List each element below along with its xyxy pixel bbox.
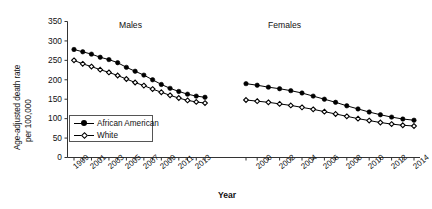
data-point-marker	[367, 118, 372, 123]
data-point-marker	[177, 89, 181, 93]
data-point-marker	[389, 115, 393, 119]
data-point-marker	[168, 86, 172, 90]
data-point-marker	[98, 67, 103, 72]
data-point-marker	[356, 107, 360, 111]
data-point-marker	[333, 100, 337, 104]
data-point-marker	[266, 100, 271, 105]
data-point-marker	[322, 97, 326, 101]
legend-item-white: White	[74, 129, 118, 141]
legend-marker-open-diamond-icon	[74, 131, 94, 140]
data-point-marker	[185, 98, 190, 103]
data-point-marker	[311, 94, 315, 98]
data-point-marker	[389, 122, 394, 127]
data-point-marker	[255, 99, 260, 104]
data-point-marker	[289, 88, 293, 92]
data-point-marker	[266, 85, 270, 89]
legend-label-white: White	[97, 131, 118, 140]
data-point-marker	[141, 83, 146, 88]
legend-item-african-american: African American	[74, 117, 159, 129]
data-point-marker	[115, 60, 119, 64]
data-point-marker	[80, 61, 85, 66]
data-point-marker	[168, 93, 173, 98]
data-point-marker	[300, 91, 304, 95]
data-point-marker	[115, 73, 120, 78]
data-point-marker	[203, 101, 208, 106]
data-point-marker	[150, 87, 155, 92]
data-point-marker	[344, 114, 349, 119]
data-point-marker	[124, 77, 129, 82]
data-point-marker	[98, 55, 102, 59]
data-point-marker	[142, 73, 146, 77]
data-point-marker	[277, 87, 281, 91]
data-point-marker	[72, 58, 77, 63]
data-point-marker	[133, 80, 138, 85]
data-point-marker	[277, 101, 282, 106]
data-point-marker	[300, 105, 305, 110]
legend-marker-filled-circle-icon	[74, 119, 94, 128]
chart-legend: African American White	[69, 115, 153, 142]
data-point-marker	[244, 98, 249, 103]
chart-figure: Age-adjusted death rate per 100,000 0501…	[0, 0, 432, 209]
data-point-marker	[159, 90, 164, 95]
data-point-marker	[356, 116, 361, 121]
series-line-white	[246, 100, 414, 126]
plot-area	[0, 0, 432, 209]
data-point-marker	[89, 52, 93, 56]
data-point-marker	[81, 50, 85, 54]
data-point-marker	[194, 100, 199, 105]
x-axis-label: Year	[218, 190, 236, 200]
data-point-marker	[203, 95, 207, 99]
data-point-marker	[107, 70, 112, 75]
data-point-marker	[150, 78, 154, 82]
data-point-marker	[333, 112, 338, 117]
data-point-marker	[107, 57, 111, 61]
data-point-marker	[244, 81, 248, 85]
data-point-marker	[133, 69, 137, 73]
data-point-marker	[72, 47, 76, 51]
data-point-marker	[412, 118, 416, 122]
series-line-african-american	[246, 84, 414, 121]
data-point-marker	[378, 113, 382, 117]
legend-label-african-american: African American	[97, 119, 159, 128]
data-point-marker	[194, 94, 198, 98]
data-point-marker	[412, 124, 417, 129]
data-point-marker	[288, 103, 293, 108]
data-point-marker	[176, 96, 181, 101]
data-point-marker	[367, 110, 371, 114]
data-point-marker	[378, 120, 383, 125]
data-point-marker	[124, 65, 128, 69]
data-point-marker	[401, 117, 405, 121]
data-point-marker	[159, 82, 163, 86]
data-point-marker	[311, 107, 316, 112]
data-point-marker	[400, 123, 405, 128]
data-point-marker	[322, 109, 327, 114]
data-point-marker	[255, 83, 259, 87]
data-point-marker	[345, 104, 349, 108]
data-point-marker	[185, 92, 189, 96]
series-line-african-american	[74, 49, 205, 97]
data-point-marker	[89, 64, 94, 69]
